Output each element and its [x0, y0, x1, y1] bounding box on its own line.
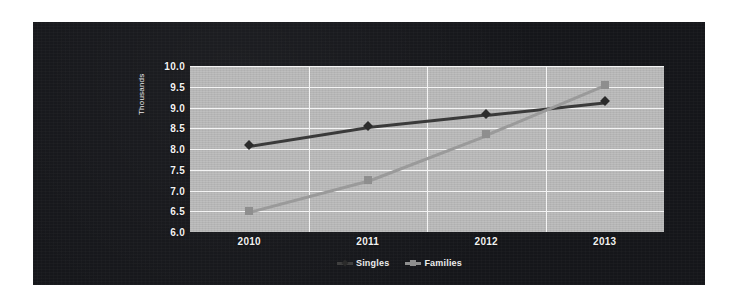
gridline-vertical	[546, 66, 547, 232]
slide-canvas: Thousands 6.06.57.07.58.08.59.09.510.0 2…	[0, 0, 733, 300]
x-axis-tick-label: 2013	[593, 236, 616, 247]
legend-swatch-singles-icon	[337, 262, 353, 265]
y-axis-tick-label: 9.5	[170, 81, 185, 92]
data-point-marker-families	[482, 130, 490, 138]
y-axis-tick-label: 6.5	[170, 206, 185, 217]
presentation-slide: Thousands 6.06.57.07.58.08.59.09.510.0 2…	[33, 22, 705, 285]
legend-label: Singles	[356, 258, 389, 268]
legend-item-singles: Singles	[337, 258, 389, 268]
chart-legend: SinglesFamilies	[33, 256, 705, 270]
legend-swatch-families-icon	[405, 262, 421, 265]
y-axis-tick-label: 10.0	[164, 61, 185, 72]
data-point-marker-singles	[481, 109, 491, 119]
y-axis-tick-label: 9.0	[170, 102, 185, 113]
data-point-marker-families	[245, 207, 253, 215]
legend-item-families: Families	[405, 258, 462, 268]
y-axis-title: Thousands	[137, 62, 151, 126]
x-axis-tick-label: 2011	[356, 236, 379, 247]
x-axis-tick-label: 2012	[475, 236, 498, 247]
y-axis-tick-label: 8.0	[170, 144, 185, 155]
legend-marker-families-icon	[410, 260, 416, 266]
x-axis-tick-label: 2010	[238, 236, 261, 247]
legend-marker-singles-icon	[341, 259, 348, 266]
chart-plot-area	[190, 66, 664, 232]
gridline-vertical	[427, 66, 428, 232]
y-axis-tick-label: 8.5	[170, 123, 185, 134]
y-axis-tick-label: 7.5	[170, 164, 185, 175]
x-axis-tick-labels: 2010201120122013	[190, 236, 664, 252]
y-axis-tick-label: 7.0	[170, 185, 185, 196]
legend-label: Families	[424, 258, 462, 268]
y-axis-tick-label: 6.0	[170, 227, 185, 238]
data-point-marker-families	[364, 176, 372, 184]
data-point-marker-families	[601, 81, 609, 89]
gridline-vertical	[309, 66, 310, 232]
y-axis-tick-labels: 6.06.57.07.58.08.59.09.510.0	[151, 58, 187, 238]
